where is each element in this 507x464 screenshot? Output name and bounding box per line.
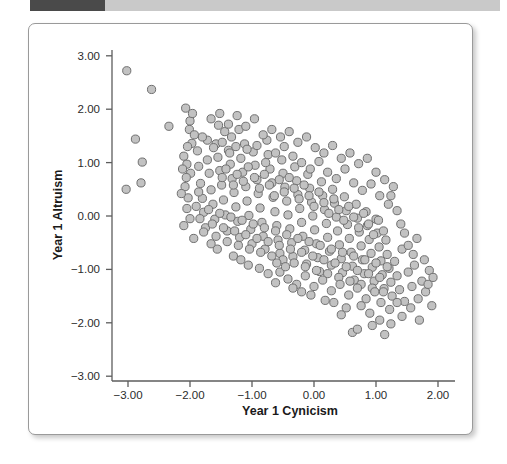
figure-panel [28, 23, 473, 435]
header-bar-accent [30, 0, 105, 11]
header-bar [30, 0, 500, 11]
